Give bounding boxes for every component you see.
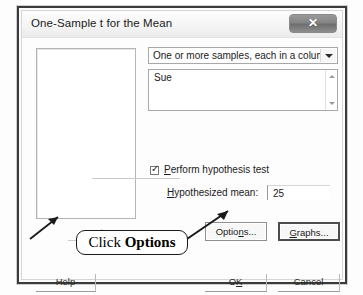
caret-up-icon[interactable] <box>329 75 335 78</box>
label-part: s... <box>244 226 257 237</box>
callout-text: Click Options <box>77 231 187 254</box>
listbox-scrollbar[interactable] <box>325 70 337 110</box>
ok-button[interactable]: OK <box>205 274 267 292</box>
variable-list-box[interactable] <box>36 48 136 219</box>
accelerator-key: P <box>164 164 171 175</box>
caret-down-icon[interactable] <box>329 102 335 105</box>
click-options-callout: Click Options <box>76 230 188 255</box>
cancel-button[interactable]: Cancel <box>278 274 340 292</box>
hypothesized-mean-label: Hypothesized mean: <box>167 187 258 198</box>
callout-prefix: Click <box>88 234 124 250</box>
label-rest: ypothesized mean: <box>174 187 258 198</box>
perform-hypothesis-test-checkbox[interactable]: ✓ <box>150 166 159 175</box>
dialog-titlebar: One-Sample t for the Mean ✕ <box>22 11 342 38</box>
hypothesized-mean-value: 25 <box>273 188 284 199</box>
options-button[interactable]: Options... <box>205 222 267 241</box>
accelerator-key: K <box>236 276 242 287</box>
list-item[interactable]: Sue <box>154 72 172 83</box>
label-rest: erform hypothesis test <box>171 164 269 175</box>
perform-hypothesis-test-label: Perform hypothesis test <box>164 164 269 175</box>
field-underline-decoration <box>92 178 180 179</box>
label-part: O <box>229 276 236 287</box>
checkmark-icon: ✓ <box>151 164 159 174</box>
perform-hypothesis-test-row[interactable]: ✓ Perform hypothesis test <box>150 164 350 178</box>
accelerator-key: G <box>289 227 296 238</box>
close-icon: ✕ <box>290 15 336 32</box>
label-part: Optio <box>216 226 239 237</box>
dropdown-arrow-box[interactable] <box>320 49 336 62</box>
label-part: raphs... <box>297 227 329 238</box>
graphs-button[interactable]: Graphs... <box>278 222 340 241</box>
chevron-down-icon <box>325 54 333 58</box>
dialog-title: One-Sample t for the Mean <box>31 17 172 29</box>
screenshot-backdrop: One-Sample t for the Mean ✕ Select One o… <box>0 0 363 295</box>
callout-emphasis: Options <box>125 234 176 250</box>
selected-columns-listbox[interactable]: Sue <box>148 69 338 111</box>
sample-source-dropdown[interactable]: One or more samples, each in a column <box>148 47 338 64</box>
help-button[interactable]: Help <box>36 274 96 292</box>
hypothesized-mean-input[interactable]: 25 <box>267 185 330 200</box>
sample-source-dropdown-value: One or more samples, each in a column <box>153 50 330 61</box>
close-button[interactable]: ✕ <box>289 14 337 33</box>
